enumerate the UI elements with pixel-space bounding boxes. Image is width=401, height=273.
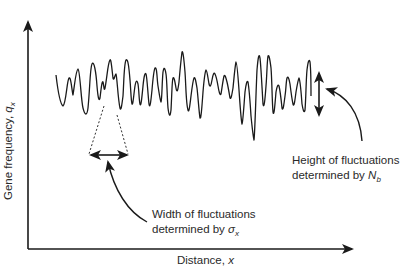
width-annotation-line2: determined by σx — [152, 222, 256, 241]
height-annotation: Height of fluctuations determined by Nb — [292, 153, 399, 187]
width-indicator — [89, 106, 128, 155]
sigma-symbol: σ — [228, 223, 235, 235]
height-annotation-line1: Height of fluctuations — [292, 153, 399, 168]
width-annotation-line1: Width of fluctuations — [152, 207, 256, 222]
y-axis-subscript: x — [8, 102, 17, 106]
x-axis-symbol: x — [228, 254, 234, 266]
width-callout-arrow — [108, 162, 147, 222]
height-annotation-line2: determined by Nb — [292, 168, 399, 187]
sigma-subscript: x — [235, 229, 239, 238]
y-axis-label-text: Gene frequency, — [2, 113, 14, 200]
x-axis-label: Distance, x — [177, 253, 234, 268]
height-callout-arrow — [327, 89, 362, 141]
y-axis-symbol: q — [2, 106, 14, 112]
gene-frequency-trace — [56, 52, 311, 140]
x-axis-label-text: Distance, — [177, 254, 228, 266]
n-subscript: b — [376, 175, 380, 184]
width-annotation: Width of fluctuations determined by σx — [152, 207, 256, 241]
y-axis-label: Gene frequency, qx — [2, 102, 17, 200]
